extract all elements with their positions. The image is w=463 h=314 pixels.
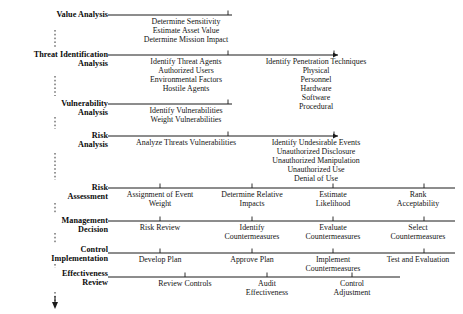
task-group-risk-analysis-0: Analyze Threats Vulnerabilities (116, 138, 256, 147)
task-group-threat-identification-analysis-1: Identify Penetration Techniques Physical… (246, 57, 386, 112)
stage-label-vulnerability-analysis: Vulnerability Analysis (0, 99, 108, 118)
stage-label-value-analysis: Value Analysis (0, 10, 108, 19)
stage-label-risk-analysis: Risk Analysis (0, 131, 108, 150)
task-group-control-implementation-3: Test and Evaluation (348, 255, 463, 264)
process-flow-diagram: Value AnalysisThreat Identification Anal… (0, 0, 463, 314)
stage-label-effectiveness-review: Effectiveness Review (0, 269, 108, 288)
task-group-effectiveness-review-2: Control Adjustment (282, 279, 422, 297)
task-group-value-analysis-0: Determine Sensitivity Estimate Asset Val… (116, 17, 256, 44)
stage-label-threat-identification-analysis: Threat Identification Analysis (0, 50, 108, 69)
spine-arrow-head (52, 302, 58, 309)
task-group-threat-identification-analysis-0: Identify Threat Agents Authorized Users … (116, 57, 256, 93)
task-group-risk-assessment-3: Rank Acceptability (348, 190, 463, 208)
task-group-vulnerability-analysis-0: Identify Vulnerabilities Weight Vulnerab… (116, 106, 256, 124)
task-group-management-decision-3: Select Countermeasures (348, 223, 463, 241)
task-group-risk-analysis-1: Identify Undesirable Events Unauthorized… (246, 138, 386, 183)
